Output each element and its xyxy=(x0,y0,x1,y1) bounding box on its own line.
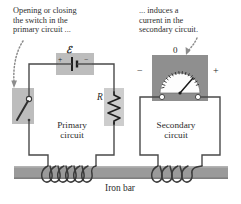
dotted-arrow-to-meter-head xyxy=(186,47,191,55)
galvanometer-terminal-left[interactable] xyxy=(159,94,164,99)
primary-wire-top-right xyxy=(92,64,114,92)
galvanometer-terminal-right[interactable] xyxy=(195,94,200,99)
emf-symbol-label: ℰ xyxy=(66,44,72,55)
switch-highlight-box xyxy=(12,88,34,124)
galvanometer-zero-label: 0 xyxy=(173,45,178,55)
iron-bar-bottom-edge xyxy=(14,177,228,179)
caption-secondary-circuit: ... induces a current in the secondary c… xyxy=(139,6,237,35)
primary-circuit-label: Primary circuit xyxy=(44,120,100,141)
secondary-circuit-label: Secondary circuit xyxy=(145,120,207,141)
switch-lower-contact xyxy=(28,119,31,122)
galvanometer-needle-pivot xyxy=(178,91,181,94)
battery-positive-terminal-label: + xyxy=(58,55,62,64)
resistor-symbol-label: R xyxy=(97,92,103,102)
induction-diagram-figure: Opening or closing the switch in the pri… xyxy=(0,0,241,204)
dotted-arrow-to-switch xyxy=(14,41,23,82)
dotted-arrow-to-switch-head xyxy=(11,81,17,89)
galvanometer-positive-label: + xyxy=(213,65,219,76)
iron-bar-label: Iron bar xyxy=(80,183,160,193)
dotted-arrow-to-meter xyxy=(189,38,197,50)
galvanometer-negative-label: − xyxy=(137,65,143,76)
battery-negative-terminal-label: − xyxy=(84,55,88,64)
caption-primary-circuit: Opening or closing the switch in the pri… xyxy=(13,6,113,35)
